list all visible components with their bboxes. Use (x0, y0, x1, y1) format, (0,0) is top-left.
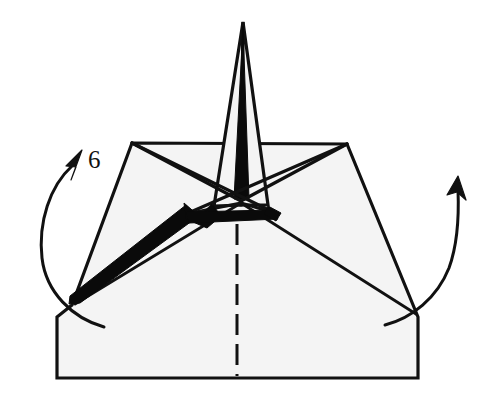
origami-diagram-root: 6 (0, 0, 492, 408)
step-number-label: 6 (88, 146, 101, 173)
left-arrow-head-icon (66, 150, 82, 180)
origami-diagram-svg: 6 (0, 0, 492, 408)
center-spike (214, 22, 268, 206)
right-arrow-head-icon (447, 176, 466, 200)
